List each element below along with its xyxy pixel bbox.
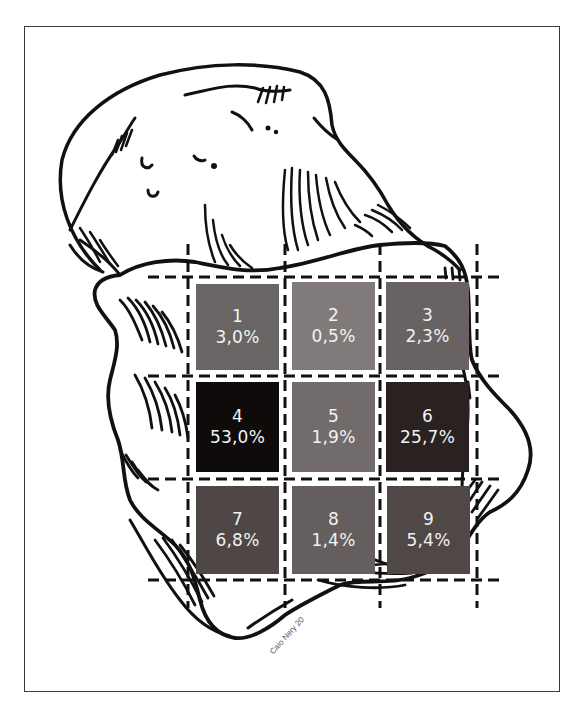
zone-number: 6 xyxy=(422,406,433,427)
zone-number: 1 xyxy=(232,306,243,327)
zone-number: 3 xyxy=(422,305,433,326)
zone-number: 4 xyxy=(232,406,243,427)
zone-percent: 3,0% xyxy=(216,327,260,348)
zone-cell-8: 8 1,4% xyxy=(292,486,375,574)
zone-cell-2: 2 0,5% xyxy=(292,282,375,370)
zone-cell-4: 4 53,0% xyxy=(196,382,279,472)
zone-cell-6: 6 25,7% xyxy=(386,382,469,472)
zone-number: 8 xyxy=(328,509,339,530)
zone-percent: 53,0% xyxy=(210,427,265,448)
zone-percent: 6,8% xyxy=(216,530,260,551)
zone-cell-9: 9 5,4% xyxy=(387,486,470,574)
zone-percent: 0,5% xyxy=(312,326,356,347)
zone-cell-5: 5 1,9% xyxy=(292,382,375,472)
talus-bone-illustration xyxy=(0,0,579,724)
zone-number: 5 xyxy=(328,406,339,427)
zone-percent: 25,7% xyxy=(400,427,455,448)
zone-cell-3: 3 2,3% xyxy=(386,282,469,370)
zone-percent: 2,3% xyxy=(406,326,450,347)
zone-cell-1: 1 3,0% xyxy=(196,284,279,370)
zone-number: 2 xyxy=(328,305,339,326)
zone-percent: 1,9% xyxy=(312,427,356,448)
zone-number: 7 xyxy=(232,509,243,530)
zone-number: 9 xyxy=(423,509,434,530)
zone-percent: 5,4% xyxy=(407,530,451,551)
zone-cell-7: 7 6,8% xyxy=(196,486,279,574)
zone-percent: 1,4% xyxy=(312,530,356,551)
